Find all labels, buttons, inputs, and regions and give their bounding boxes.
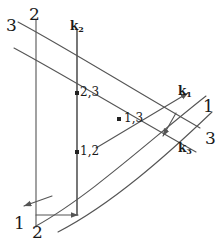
diagram-canvas: 3 2 k2 k1 k3 1 3 1 2 2,3 1,3 1,2: [0, 0, 223, 248]
label-family-3-top: 3: [6, 17, 17, 34]
curve-family-1-upper: [36, 96, 206, 226]
label-point-23: 2,3: [80, 86, 99, 98]
label-vector-k3: k3: [178, 142, 192, 154]
label-vector-k2: k2: [70, 20, 84, 32]
label-point-13: 1,3: [124, 112, 143, 124]
label-vector-k1: k1: [178, 85, 192, 97]
label-vector-k1-subscript: 1: [186, 89, 192, 99]
curve-family-3-upper: [18, 22, 200, 128]
label-family-2-bottom: 2: [32, 224, 43, 241]
dot-point-13: [117, 117, 121, 121]
curve-family-3-lower: [14, 48, 196, 152]
curve-family-1-lower: [58, 112, 212, 232]
label-vector-k3-subscript: 3: [186, 146, 192, 156]
label-family-3-right: 3: [205, 130, 216, 147]
label-vector-k2-subscript: 2: [78, 24, 84, 34]
label-point-12: 1,2: [80, 145, 99, 157]
label-family-2-top: 2: [29, 6, 40, 23]
arrow-vector-k3: [163, 113, 176, 136]
label-family-1-right: 1: [203, 98, 214, 115]
dot-point-12: [75, 150, 79, 154]
diagram-vector-graphics: [0, 0, 223, 248]
dot-point-23: [75, 91, 79, 95]
label-family-1-bottom: 1: [14, 215, 25, 232]
arrow-origin-diagonal: [24, 196, 52, 206]
